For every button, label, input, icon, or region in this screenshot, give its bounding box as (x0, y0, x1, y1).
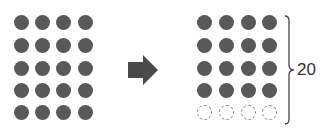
filled-dot (262, 15, 277, 30)
filled-dot (219, 83, 234, 98)
filled-dot (197, 83, 212, 98)
filled-dot (14, 61, 29, 76)
filled-dot (241, 15, 256, 30)
filled-dot (78, 61, 93, 76)
filled-dot (241, 61, 256, 76)
filled-dot (262, 61, 277, 76)
right-brace-icon (283, 15, 297, 125)
filled-dot (219, 61, 234, 76)
filled-dot (197, 38, 212, 53)
filled-dot (78, 105, 93, 120)
empty-dashed-dot (219, 105, 234, 120)
filled-dot (78, 38, 93, 53)
filled-dot (14, 38, 29, 53)
filled-dot (262, 38, 277, 53)
filled-dot (56, 83, 71, 98)
filled-dot (197, 15, 212, 30)
filled-dot (14, 105, 29, 120)
filled-dot (56, 61, 71, 76)
filled-dot (56, 15, 71, 30)
total-count-label: 20 (297, 60, 316, 80)
filled-dot (262, 83, 277, 98)
filled-dot (35, 61, 50, 76)
filled-dot (241, 38, 256, 53)
right-arrow-icon (126, 54, 160, 86)
filled-dot (14, 15, 29, 30)
empty-dashed-dot (241, 105, 256, 120)
right-dot-grid (183, 0, 283, 132)
empty-dashed-dot (197, 105, 212, 120)
filled-dot (35, 38, 50, 53)
filled-dot (35, 15, 50, 30)
filled-dot (219, 38, 234, 53)
filled-dot (56, 105, 71, 120)
filled-dot (35, 83, 50, 98)
filled-dot (56, 38, 71, 53)
filled-dot (197, 61, 212, 76)
filled-dot (219, 15, 234, 30)
filled-dot (78, 15, 93, 30)
filled-dot (35, 105, 50, 120)
filled-dot (241, 83, 256, 98)
empty-dashed-dot (262, 105, 277, 120)
filled-dot (78, 83, 93, 98)
left-dot-grid (0, 0, 110, 132)
filled-dot (14, 83, 29, 98)
